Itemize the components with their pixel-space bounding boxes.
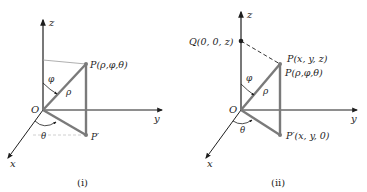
rho-label: ρ xyxy=(65,87,72,97)
phi-arc xyxy=(43,83,57,94)
phi-arc xyxy=(241,84,254,95)
projection-segment xyxy=(43,110,86,135)
p-prime-label: P′ xyxy=(90,132,99,142)
theta-arc xyxy=(35,121,56,126)
panel-i: z y x O P(ρ,φ,θ) P′ φ ρ θ (i) xyxy=(8,17,162,188)
x-axis-label: x xyxy=(10,158,16,169)
spherical-coordinates-figure: z y x O P(ρ,φ,θ) P′ φ ρ θ (i) z y x O Q xyxy=(0,0,367,192)
point-p-cartesian-label: P(x, y, z) xyxy=(286,53,328,64)
phi-label: φ xyxy=(246,73,253,83)
point-p xyxy=(278,62,282,66)
point-p-spherical-label: P(ρ,φ,θ) xyxy=(284,67,323,78)
x-axis-label: x xyxy=(207,158,213,169)
origin-label: O xyxy=(229,104,237,115)
caption-ii: (ii) xyxy=(271,177,285,188)
point-p xyxy=(84,62,88,66)
rho-segment xyxy=(43,64,86,110)
rho-segment xyxy=(241,64,280,110)
theta-arc xyxy=(233,120,252,124)
origin-label: O xyxy=(31,104,39,115)
x-axis xyxy=(206,110,241,158)
point-p-prime xyxy=(278,133,282,137)
point-q-label: Q(0, 0, z) xyxy=(189,36,234,47)
theta-label: θ xyxy=(41,131,46,141)
panel-ii: z y x O Q(0, 0, z) P(x, y, z) P(ρ,φ,θ) P… xyxy=(189,9,357,188)
x-axis xyxy=(8,110,43,158)
point-p-prime xyxy=(84,133,88,137)
point-p-label: P(ρ,φ,θ) xyxy=(89,59,128,70)
caption-i: (i) xyxy=(77,177,88,188)
phi-label: φ xyxy=(48,74,55,84)
guide-line-z xyxy=(43,60,86,64)
p-prime-label: P′(x, y, 0) xyxy=(285,130,330,141)
y-axis-label: y xyxy=(350,113,357,124)
point-q xyxy=(239,39,244,44)
q-to-p-dashed xyxy=(241,41,280,64)
z-axis-label: z xyxy=(48,17,55,28)
z-axis-label: z xyxy=(246,9,253,20)
rho-label: ρ xyxy=(262,86,269,96)
theta-label: θ xyxy=(240,125,245,135)
y-axis-label: y xyxy=(153,113,160,124)
